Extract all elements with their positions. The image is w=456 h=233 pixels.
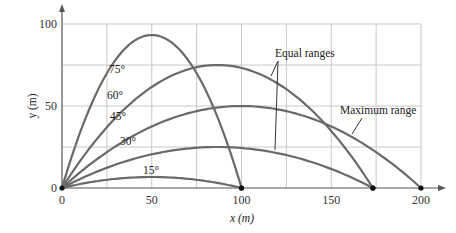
landing-point-30 bbox=[370, 185, 375, 190]
origin-point bbox=[59, 185, 64, 190]
annotations: Equal ranges Maximum range bbox=[271, 47, 416, 150]
x-tick-label: 200 bbox=[412, 193, 430, 207]
x-tick-label: 150 bbox=[322, 193, 340, 207]
landing-point-45 bbox=[418, 185, 423, 190]
x-tick-label: 50 bbox=[146, 193, 158, 207]
angle-label-60: 60° bbox=[107, 89, 124, 101]
y-tick-label: 0 bbox=[51, 181, 57, 195]
angle-label-30: 30° bbox=[120, 135, 137, 147]
y-axis-arrow bbox=[59, 4, 65, 12]
equal-ranges-label: Equal ranges bbox=[275, 47, 335, 60]
y-tick-label: 100 bbox=[39, 17, 57, 31]
maximum-range-label: Maximum range bbox=[340, 104, 416, 117]
x-tick-label: 0 bbox=[59, 193, 65, 207]
angle-label-75: 75° bbox=[109, 63, 126, 75]
x-axis-arrow bbox=[438, 185, 446, 191]
y-tick-label: 50 bbox=[45, 99, 57, 113]
landing-point-15 bbox=[239, 185, 244, 190]
x-tick-label: 100 bbox=[233, 193, 251, 207]
projectile-chart: 75°60°45°30°15° 050100150200050100 x (m)… bbox=[0, 0, 456, 233]
maximum-range-pointer bbox=[352, 118, 362, 134]
angle-label-45: 45° bbox=[110, 110, 127, 122]
trajectory-60 bbox=[62, 65, 373, 188]
y-axis-label: y (m) bbox=[26, 93, 39, 118]
x-axis-label: x (m) bbox=[229, 212, 254, 225]
angle-label-15: 15° bbox=[143, 164, 160, 176]
equal-ranges-pointer-60 bbox=[271, 61, 278, 76]
